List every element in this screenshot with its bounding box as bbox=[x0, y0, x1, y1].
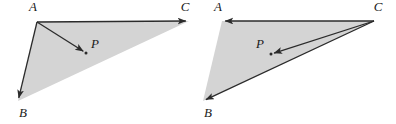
vertex-label-P: P bbox=[255, 36, 264, 51]
point-P-dot bbox=[270, 53, 273, 56]
vertex-label-B: B bbox=[19, 105, 27, 120]
left-panel: A B C P bbox=[18, 0, 190, 120]
right-panel: A B C P bbox=[203, 0, 383, 120]
vertex-label-A: A bbox=[213, 0, 222, 14]
figure-root: A B C P A B C P bbox=[0, 0, 396, 124]
vertex-label-B: B bbox=[204, 105, 212, 120]
vertex-label-A: A bbox=[28, 0, 37, 14]
point-P-dot bbox=[85, 52, 88, 55]
vertex-label-C: C bbox=[181, 0, 190, 14]
vertex-label-P: P bbox=[90, 36, 99, 51]
vector-diagram-svg: A B C P A B C P bbox=[0, 0, 396, 124]
triangle-abc-fill-left bbox=[18, 21, 189, 101]
vertex-label-C: C bbox=[374, 0, 383, 14]
